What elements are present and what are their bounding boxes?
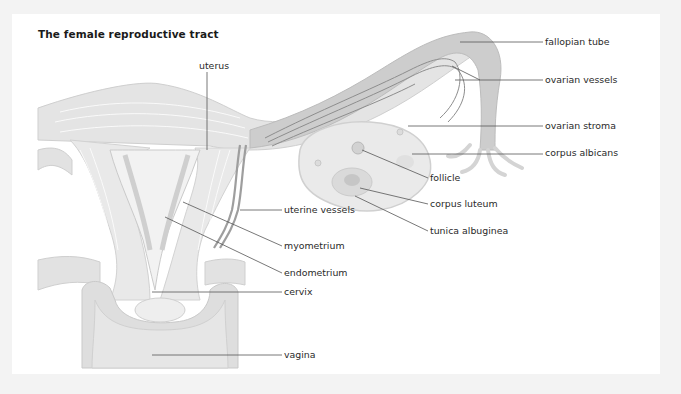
label-corpus-luteum: corpus luteum <box>430 198 498 209</box>
label-tunica-albuginea: tunica albuginea <box>430 225 508 236</box>
ovary-shape <box>299 122 431 211</box>
label-uterus: uterus <box>199 60 229 71</box>
label-corpus-albicans: corpus albicans <box>545 147 618 158</box>
label-endometrium: endometrium <box>284 267 348 278</box>
label-uterine-vessels: uterine vessels <box>284 204 355 215</box>
diagram-title: The female reproductive tract <box>38 28 219 40</box>
label-fallopian-tube: fallopian tube <box>545 36 610 47</box>
label-vagina: vagina <box>284 349 316 360</box>
label-ovarian-stroma: ovarian stroma <box>545 120 616 131</box>
label-cervix: cervix <box>284 286 312 297</box>
reproductive-tract-illustration <box>0 0 681 394</box>
label-ovarian-vessels: ovarian vessels <box>545 74 618 85</box>
label-myometrium: myometrium <box>284 240 345 251</box>
label-follicle: follicle <box>430 172 460 183</box>
diagram-frame: The female reproductive tract uterus fal… <box>0 0 681 394</box>
